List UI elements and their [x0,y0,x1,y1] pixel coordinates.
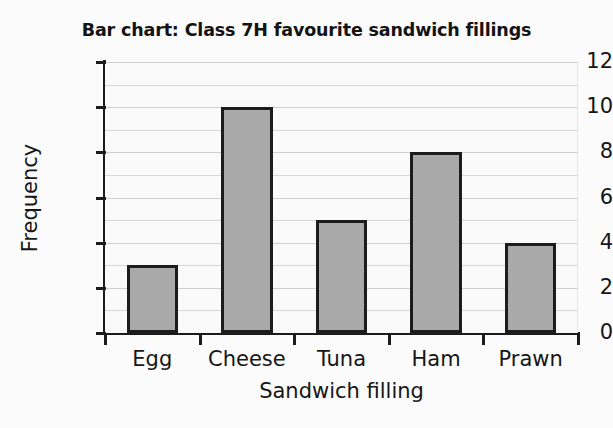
chart-title: Bar chart: Class 7H favourite sandwich f… [0,20,613,40]
x-axis-tick [199,335,202,345]
bar [505,243,557,333]
bar [127,265,179,333]
gridline [105,107,578,108]
y-axis-tick [96,106,106,109]
gridline [105,175,578,176]
x-axis-tick [104,335,107,345]
bar [221,107,273,333]
bar-chart-page: { "chart_data": { "type": "bar", "title"… [0,0,613,428]
y-axis-tick-label: 0 [569,322,613,343]
y-axis-tick-label: 10 [569,96,613,117]
y-axis-title: Frequency [18,108,42,288]
plot-area [105,62,578,333]
x-axis-tick [482,335,485,345]
x-axis-tick [388,335,391,345]
x-axis-category-label: Tuna [294,348,389,371]
y-axis-tick-label: 6 [569,187,613,208]
bar [316,220,368,333]
gridline [105,85,578,86]
x-axis-category-label: Prawn [483,348,578,371]
gridline [105,130,578,131]
y-axis-tick [96,61,106,64]
gridline [105,62,578,63]
y-axis-tick [96,197,106,200]
y-axis-tick [96,287,106,290]
y-axis-tick-label: 4 [569,232,613,253]
y-axis-tick-label: 12 [569,51,613,72]
y-axis-tick [96,151,106,154]
bar [410,152,462,333]
gridline [105,198,578,199]
x-axis-category-label: Ham [389,348,484,371]
x-axis-title: Sandwich filling [105,379,578,403]
y-axis-tick-label: 2 [569,277,613,298]
x-axis-category-label: Egg [105,348,200,371]
x-axis-category-label: Cheese [200,348,295,371]
gridline [105,152,578,153]
y-axis-tick-label: 8 [569,141,613,162]
x-axis-tick [293,335,296,345]
y-axis-tick [96,242,106,245]
x-axis-tick [577,335,580,345]
